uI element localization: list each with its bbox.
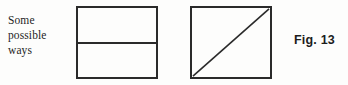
caption-line-1: Some — [8, 13, 70, 28]
square-split-diagonal — [190, 6, 272, 79]
caption-block: Some possible ways — [8, 13, 70, 58]
square-split-horizontal — [76, 6, 158, 79]
figure-13-illustration: Some possible ways Fig. 13 — [0, 0, 348, 85]
caption-line-3: ways — [8, 43, 70, 58]
horizontal-divider-line — [78, 42, 156, 44]
diagonal-divider-line — [192, 8, 270, 77]
figure-label: Fig. 13 — [294, 33, 335, 47]
caption-line-2: possible — [8, 28, 70, 43]
